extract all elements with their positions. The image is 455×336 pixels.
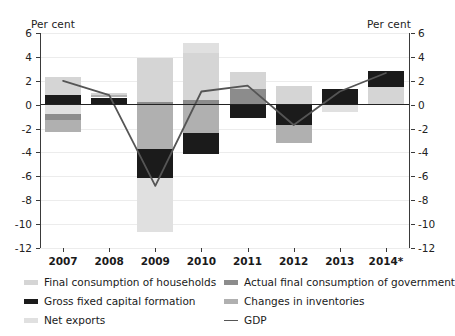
y-tick-label-right: -6: [418, 171, 442, 181]
gridline: [40, 129, 410, 130]
y-tick-right: [411, 57, 415, 58]
bar-segment: [230, 105, 266, 118]
y-tick-label-right: -4: [418, 147, 442, 157]
gridline: [40, 176, 410, 177]
legend-label: Changes in inventories: [244, 295, 365, 307]
legend-label: GDP: [244, 314, 267, 326]
legend-item[interactable]: Actual final consumption of government: [224, 276, 455, 288]
bar-segment: [183, 53, 219, 100]
bar-segment: [368, 87, 404, 105]
legend-label: Actual final consumption of government: [244, 276, 455, 288]
y-tick-label-right: 2: [418, 76, 442, 86]
bar-segment: [91, 93, 127, 95]
y-tick-label-left: -2: [10, 124, 32, 134]
x-tick: [248, 248, 249, 252]
bar-segment: [230, 72, 266, 89]
y-tick-right: [411, 248, 415, 249]
y-tick-label-right: -10: [418, 219, 442, 229]
y-tick-right: [411, 33, 415, 34]
y-tick-label-right: -12: [418, 243, 442, 253]
legend-line-swatch: [224, 320, 238, 321]
y-tick-label-right: 0: [418, 100, 442, 110]
y-tick-label-left: 0: [10, 100, 32, 110]
y-tick-label-right: -2: [418, 124, 442, 134]
y-tick-label-right: 6: [418, 28, 442, 38]
y-tick-label-left: -6: [10, 171, 32, 181]
bar-segment: [322, 89, 358, 105]
y-axis-left: [40, 33, 41, 248]
y-axis-unit-label-right: Per cent: [367, 18, 411, 30]
x-tick: [294, 248, 295, 252]
gridline: [40, 224, 410, 225]
y-tick-left: [36, 176, 40, 177]
x-axis-label: 2014*: [358, 255, 414, 267]
bar-segment: [276, 125, 312, 143]
gridline: [40, 200, 410, 201]
zero-axis-line: [40, 104, 410, 106]
bar-segment: [45, 120, 81, 132]
bar-segment: [137, 178, 173, 233]
bar-segment: [137, 105, 173, 149]
y-tick-left: [36, 224, 40, 225]
y-tick-right: [411, 152, 415, 153]
y-tick-label-right: -8: [418, 195, 442, 205]
y-tick-right: [411, 176, 415, 177]
legend-item[interactable]: Changes in inventories: [224, 295, 365, 307]
legend-color-swatch: [24, 299, 38, 304]
bar-segment: [45, 105, 81, 115]
x-tick: [155, 248, 156, 252]
y-tick-label-left: -4: [10, 147, 32, 157]
gridline: [40, 57, 410, 58]
y-tick-left: [36, 152, 40, 153]
legend-item[interactable]: Final consumption of households: [24, 276, 216, 288]
gridline: [40, 248, 410, 249]
bar-segment: [137, 149, 173, 178]
y-tick-right: [411, 200, 415, 201]
legend-item[interactable]: Gross fixed capital formation: [24, 295, 196, 307]
bar-segment: [368, 71, 404, 87]
legend-label: Net exports: [44, 314, 105, 326]
y-tick-label-left: -10: [10, 219, 32, 229]
legend-color-swatch: [224, 280, 238, 285]
legend-item[interactable]: GDP: [224, 314, 267, 326]
x-tick: [109, 248, 110, 252]
y-tick-label-left: 2: [10, 76, 32, 86]
bar-segment: [45, 77, 81, 95]
y-tick-left: [36, 129, 40, 130]
y-tick-left: [36, 57, 40, 58]
y-tick-left: [36, 248, 40, 249]
bar-segment: [276, 105, 312, 125]
y-tick-left: [36, 105, 40, 106]
gridline: [40, 33, 410, 34]
y-tick-left: [36, 33, 40, 34]
legend-label: Gross fixed capital formation: [44, 295, 196, 307]
y-tick-label-left: -12: [10, 243, 32, 253]
y-tick-left: [36, 200, 40, 201]
bar-segment: [183, 43, 219, 54]
bar-segment: [91, 95, 127, 97]
legend-color-swatch: [224, 299, 238, 304]
y-tick-right: [411, 224, 415, 225]
chart-legend: Final consumption of householdsActual fi…: [24, 276, 448, 332]
x-tick: [201, 248, 202, 252]
x-tick: [63, 248, 64, 252]
y-tick-left: [36, 81, 40, 82]
legend-item[interactable]: Net exports: [24, 314, 105, 326]
bar-segment: [230, 89, 266, 105]
bar-segment: [276, 86, 312, 105]
y-tick-label-left: -8: [10, 195, 32, 205]
x-tick: [386, 248, 387, 252]
legend-color-swatch: [24, 280, 38, 285]
legend-label: Final consumption of households: [44, 276, 216, 288]
x-tick: [340, 248, 341, 252]
gridline: [40, 152, 410, 153]
y-tick-right: [411, 105, 415, 106]
y-tick-right: [411, 129, 415, 130]
bar-segment: [183, 105, 219, 134]
y-axis-unit-label-left: Per cent: [31, 18, 75, 30]
y-tick-label-left: 4: [10, 52, 32, 62]
bar-segment: [183, 133, 219, 153]
legend-color-swatch: [24, 318, 38, 323]
y-tick-right: [411, 81, 415, 82]
